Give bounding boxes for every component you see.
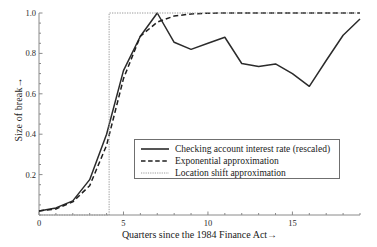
x-tick-label: 10 [204,218,213,228]
chart-figure: Size of break→ Quarters since the 1984 F… [0,0,377,247]
plot-canvas [0,0,377,247]
legend-label-location-shift: Location shift approximation [175,168,286,179]
legend-label-exponential: Exponential approximation [175,156,279,167]
series-dashed [39,13,360,211]
legend-item-exponential: Exponential approximation [140,155,334,167]
legend-item-checking-account: Checking account interest rate (rescaled… [140,143,334,155]
y-axis-label: Size of break→ [13,40,24,180]
legend-swatch-solid-icon [140,144,170,154]
x-tick-label: 5 [121,218,125,228]
y-tick-label: 0.6 [12,89,36,99]
y-axis-ticks [39,13,43,215]
y-tick-label: 0.2 [12,170,36,180]
y-tick-label: 1.0 [12,8,36,18]
x-tick-label: 15 [288,218,297,228]
x-axis-ticks [39,212,360,216]
legend-swatch-dotted-icon [140,168,170,178]
chart-legend: Checking account interest rate (rescaled… [134,139,340,179]
y-tick-label: 0.4 [12,129,36,139]
legend-item-location-shift: Location shift approximation [140,167,334,179]
legend-swatch-dashed-icon [140,156,170,166]
series-solid [39,13,360,211]
y-tick-label: 0.8 [12,48,36,58]
legend-label-checking-account: Checking account interest rate (rescaled… [175,144,330,155]
data-series-layer [39,13,360,215]
x-axis-label: Quarters since the 1984 Finance Act→ [39,229,360,240]
x-tick-label: 0 [37,218,41,228]
series-dotted [39,13,360,215]
